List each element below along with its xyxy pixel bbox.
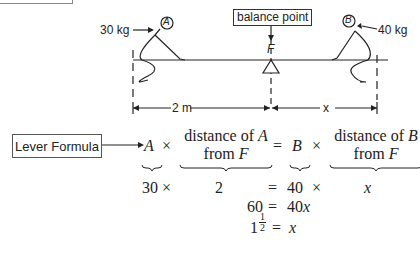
- distance-right-label: x: [323, 101, 329, 115]
- formula-times-4: ×: [312, 179, 321, 197]
- person-b-weight: 40 kg: [378, 23, 407, 37]
- distance-left-label: 2 m: [172, 101, 192, 115]
- formula-line4-whole: 1: [250, 219, 258, 237]
- person-a-leg: [155, 35, 185, 60]
- formula-line3-right: 40x: [287, 198, 310, 216]
- formula-b: B: [292, 137, 302, 155]
- formula-distance-b: distance of B from F: [328, 127, 420, 163]
- fulcrum-triangle: [263, 60, 279, 73]
- formula-a: A: [144, 137, 154, 155]
- formula-b-value: 40: [287, 179, 303, 197]
- underbrace-b: [290, 165, 310, 171]
- lever-formula-label: Lever Formula: [12, 134, 102, 158]
- formula-a-value: 30: [142, 179, 158, 197]
- formula-dist-b-value: x: [364, 179, 371, 197]
- formula-times-3: ×: [162, 179, 171, 197]
- lever-formula-text: Lever Formula: [15, 139, 99, 154]
- formula-dist-a-value: 2: [215, 179, 223, 197]
- formula-line4-fraction: 1 2: [259, 212, 266, 233]
- formula-distance-a: distance of A from F: [178, 127, 274, 163]
- formula-equals-4: =: [272, 219, 281, 237]
- formula-equals-1: =: [273, 137, 282, 155]
- formula-equals-2: =: [268, 179, 277, 197]
- formula-times-2: ×: [312, 137, 321, 155]
- person-a-body: [139, 35, 155, 82]
- underbrace-a: [142, 165, 162, 171]
- person-b-leg: [332, 31, 355, 60]
- person-a-weight: 30 kg: [100, 23, 129, 37]
- fulcrum-label: F: [267, 42, 274, 56]
- person-a-label: A: [163, 16, 170, 27]
- underbrace-dist-a: [180, 165, 272, 171]
- formula-line4-right: x: [289, 219, 296, 237]
- underbrace-dist-b: [330, 165, 420, 171]
- person-b-body: [351, 31, 370, 82]
- person-b-label: B: [345, 14, 352, 25]
- formula-equals-3: =: [268, 198, 277, 216]
- balance-point-label: balance point: [233, 9, 312, 26]
- formula-times-1: ×: [162, 137, 171, 155]
